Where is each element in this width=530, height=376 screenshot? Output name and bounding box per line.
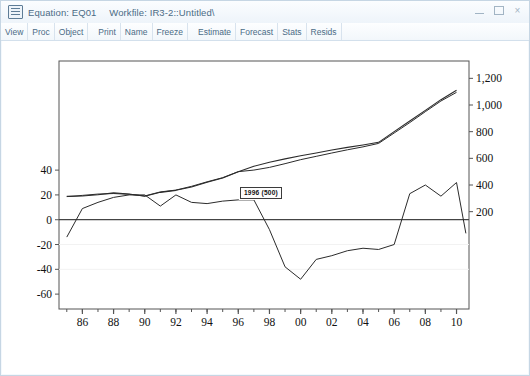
menu-icon[interactable] bbox=[8, 5, 23, 19]
data-point-tooltip: 1996 (500) bbox=[240, 187, 282, 199]
left-axis-tick-label: 40 bbox=[41, 164, 53, 176]
toolbar-group-print: Print Name Freeze bbox=[94, 23, 188, 40]
title-bar: Equation: EQ01 Workfile: IR3-2::Untitled… bbox=[1, 1, 529, 24]
toolbar-group-view: View Proc Object bbox=[1, 23, 88, 40]
page-title: Equation: EQ01 Workfile: IR3-2::Untitled… bbox=[28, 7, 215, 18]
toolbar-button-proc[interactable]: Proc bbox=[28, 23, 54, 40]
right-axis-tick-label: 800 bbox=[476, 126, 494, 138]
toolbar-button-object[interactable]: Object bbox=[55, 23, 89, 40]
toolbar-button-view[interactable]: View bbox=[1, 23, 28, 40]
x-axis-tick-label: 06 bbox=[388, 316, 400, 328]
x-axis-tick-label: 90 bbox=[139, 316, 151, 328]
x-axis-tick-label: 92 bbox=[170, 316, 182, 328]
residual-actual-fitted-plot: -60-40-20020402004006008001,0001,2008688… bbox=[2, 41, 528, 374]
x-axis-tick-label: 04 bbox=[357, 316, 369, 328]
x-axis-tick-label: 94 bbox=[201, 316, 213, 328]
left-axis-tick-label: -20 bbox=[37, 239, 53, 251]
toolbar-button-stats[interactable]: Stats bbox=[278, 23, 306, 40]
right-axis-tick-label: 200 bbox=[476, 206, 494, 218]
left-axis-tick-label: -60 bbox=[37, 288, 53, 300]
toolbar-button-resids[interactable]: Resids bbox=[307, 23, 342, 40]
x-axis-tick-label: 88 bbox=[108, 316, 120, 328]
x-axis-tick-label: 96 bbox=[233, 316, 245, 328]
x-axis-tick-label: 08 bbox=[420, 316, 432, 328]
x-axis-tick-label: 10 bbox=[451, 316, 463, 328]
toolbar-button-print[interactable]: Print bbox=[94, 23, 120, 40]
close-button[interactable]: × bbox=[512, 5, 523, 16]
x-axis-tick-label: 86 bbox=[77, 316, 89, 328]
title-equation: Equation: EQ01 bbox=[28, 7, 96, 18]
x-axis-tick-label: 00 bbox=[295, 316, 307, 328]
x-axis-tick-label: 98 bbox=[264, 316, 276, 328]
left-axis-tick-label: 0 bbox=[46, 214, 52, 226]
right-axis-tick-label: 400 bbox=[476, 179, 494, 191]
toolbar-group-estimate: Estimate Forecast Stats Resids bbox=[194, 23, 342, 40]
toolbar-button-forecast[interactable]: Forecast bbox=[236, 23, 278, 40]
equation-window: Equation: EQ01 Workfile: IR3-2::Untitled… bbox=[0, 0, 530, 376]
toolbar-button-freeze[interactable]: Freeze bbox=[153, 23, 188, 40]
left-axis-tick-label: 20 bbox=[41, 189, 53, 201]
plot-frame bbox=[59, 61, 469, 309]
right-axis-tick-label: 1,200 bbox=[476, 72, 502, 85]
toolbar-button-name[interactable]: Name bbox=[121, 23, 153, 40]
window-controls: × bbox=[474, 5, 523, 16]
left-axis-tick-label: -40 bbox=[37, 263, 53, 275]
minimize-button[interactable] bbox=[474, 5, 485, 16]
title-workfile: Workfile: IR3-2::Untitled\ bbox=[109, 7, 214, 18]
maximize-button[interactable] bbox=[493, 5, 504, 16]
right-axis-tick-label: 600 bbox=[476, 152, 494, 164]
chart-area: -60-40-20020402004006008001,0001,2008688… bbox=[2, 41, 528, 374]
x-axis-tick-label: 02 bbox=[326, 316, 338, 328]
toolbar-button-estimate[interactable]: Estimate bbox=[194, 23, 236, 40]
right-axis-tick-label: 1,000 bbox=[476, 99, 502, 112]
toolbar: View Proc Object Print Name Freeze Estim… bbox=[1, 23, 529, 41]
